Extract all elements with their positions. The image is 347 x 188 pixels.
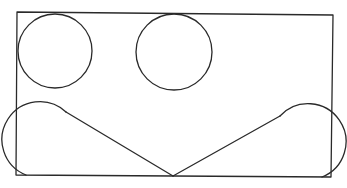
bottom-left-arc xyxy=(2,102,66,175)
diagram-canvas xyxy=(0,0,347,188)
bounding-rectangle xyxy=(16,12,333,177)
bottom-right-arc xyxy=(280,104,346,177)
left-tangent-line xyxy=(66,112,173,176)
top-middle-circle xyxy=(136,14,212,90)
right-tangent-line xyxy=(173,116,280,176)
top-left-circle xyxy=(18,14,92,88)
geometry-figure xyxy=(0,0,347,188)
